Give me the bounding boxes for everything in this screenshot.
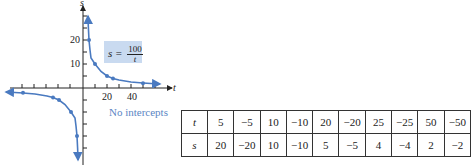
point [93,62,97,66]
y-tick-20: 20 [70,34,80,45]
table-header-s: s [182,134,208,157]
point [57,98,61,102]
equation-label: s = 100 t [108,45,143,64]
point [69,110,73,114]
no-intercepts-note: No intercepts [109,106,168,118]
point [105,74,109,78]
y-axis-label: s [80,0,84,8]
table-row-t: t 5 −5 10 −10 20 −20 25 −25 50 −50 [182,111,471,134]
x-tick-20: 20 [102,91,112,102]
point [141,81,145,85]
table-header-t: t [182,111,208,134]
x-tick-40: 40 [127,91,137,102]
curve-negative [6,92,78,158]
x-axis-label: t [173,82,176,93]
point [87,38,91,42]
values-table: t 5 −5 10 −10 20 −20 25 −25 50 −50 s 20 … [181,110,471,157]
point [51,96,55,100]
y-tick-10: 10 [70,58,80,69]
point [111,76,115,80]
table-row-s: s 20 −20 10 −10 5 −5 4 −4 2 −2 [182,134,471,157]
point [21,91,25,95]
point [75,134,79,138]
